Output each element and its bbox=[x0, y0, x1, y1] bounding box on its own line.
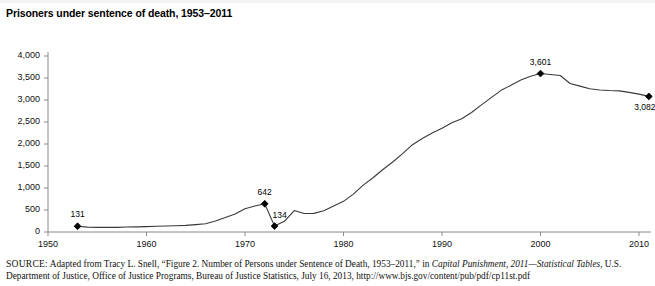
x-tick-label: 1990 bbox=[420, 239, 464, 249]
x-tick-label: 1960 bbox=[125, 239, 169, 249]
y-tick-label: 3,500 bbox=[0, 72, 40, 82]
data-point-label: 642 bbox=[245, 187, 285, 197]
y-tick-label: 2,000 bbox=[0, 138, 40, 148]
chart-plot-area: 05001,0001,5002,0002,5003,0003,5004,000 … bbox=[0, 40, 655, 250]
x-tick-label: 1970 bbox=[223, 239, 267, 249]
y-tick-label: 0 bbox=[0, 226, 40, 236]
top-edge-artifact bbox=[0, 0, 655, 3]
data-point-label: 131 bbox=[58, 209, 98, 219]
source-note: SOURCE: Adapted from Tracy L. Snell, “Fi… bbox=[6, 258, 651, 282]
source-publication-title: Capital Punishment, 2011—Statistical Tab… bbox=[432, 259, 600, 269]
data-point-label: 3,601 bbox=[521, 57, 561, 67]
figure-container: Prisoners under sentence of death, 1953–… bbox=[0, 0, 655, 286]
x-tick-label: 2000 bbox=[519, 239, 563, 249]
page-title: Prisoners under sentence of death, 1953–… bbox=[6, 7, 232, 19]
x-tick-label: 1980 bbox=[322, 239, 366, 249]
x-tick-label: 2010 bbox=[617, 239, 655, 249]
source-label: SOURCE: bbox=[6, 258, 48, 269]
source-text-part1: Adapted from Tracy L. Snell, “Figure 2. … bbox=[48, 259, 432, 269]
y-tick-label: 4,000 bbox=[0, 50, 40, 60]
data-point-label: 3,082 bbox=[625, 102, 655, 112]
y-tick-label: 2,500 bbox=[0, 116, 40, 126]
data-point-label: 134 bbox=[260, 210, 300, 220]
y-tick-label: 1,000 bbox=[0, 182, 40, 192]
y-tick-label: 1,500 bbox=[0, 160, 40, 170]
line-chart bbox=[0, 40, 655, 250]
y-tick-label: 500 bbox=[0, 204, 40, 214]
x-tick-label: 1950 bbox=[26, 239, 70, 249]
y-tick-label: 3,000 bbox=[0, 94, 40, 104]
